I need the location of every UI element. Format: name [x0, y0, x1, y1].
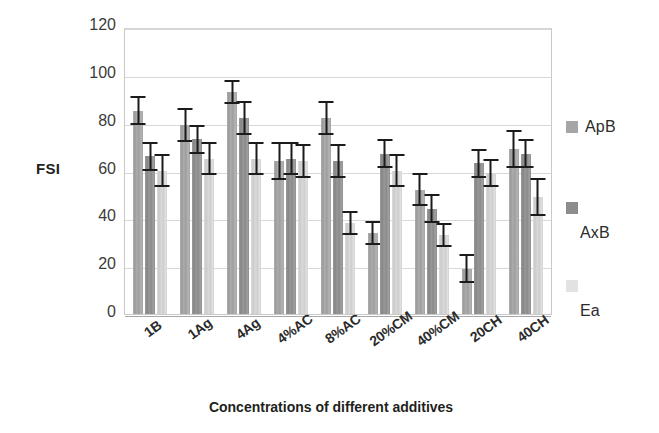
bar-slot: [192, 29, 202, 314]
bar-slot: [145, 29, 155, 314]
bar-slot: [204, 29, 214, 314]
y-tick-label: 0: [52, 304, 116, 320]
bar-slot: [180, 29, 190, 314]
bar: [298, 161, 308, 314]
bar-slot: [298, 29, 308, 314]
bar: [321, 118, 331, 314]
bar-group: [315, 29, 362, 314]
bar: [133, 111, 143, 314]
bar-group: [174, 29, 221, 314]
x-axis-title: Concentrations of different additives: [96, 399, 566, 415]
bar-slot: [286, 29, 296, 314]
bar: [368, 233, 378, 314]
bar-slot: [157, 29, 167, 314]
x-tick-wrap: 20%CM: [362, 316, 410, 386]
bar-slot: [533, 29, 543, 314]
bar-group: [221, 29, 268, 314]
bar: [474, 163, 484, 314]
bar-group: [502, 29, 549, 314]
bar-group: [408, 29, 455, 314]
bar: [239, 118, 249, 314]
x-tick-wrap: 20CH: [457, 316, 505, 386]
legend-label: Ea: [580, 302, 600, 320]
bar: [345, 223, 355, 314]
bar-slot: [474, 29, 484, 314]
x-tick-label: 4%AC: [274, 310, 315, 346]
bar: [192, 139, 202, 314]
x-axis-tick-labels: 1B1Ag4Ag4%AC8%AC20%CM40%CM20CH40CH: [124, 316, 552, 386]
legend-label: AxB: [580, 224, 610, 242]
bar: [462, 269, 472, 314]
legend-swatch-icon: [566, 121, 578, 133]
y-tick-label: 100: [52, 65, 116, 81]
x-tick-wrap: 8%AC: [314, 316, 362, 386]
bars-layer: [125, 29, 551, 314]
bar-group: [455, 29, 502, 314]
bar-group: [268, 29, 315, 314]
legend-item-apb[interactable]: ApB: [566, 118, 616, 136]
x-tick-wrap: 40CH: [505, 316, 553, 386]
bar: [204, 159, 214, 314]
legend-label: ApB: [585, 118, 616, 136]
y-tick-label: 20: [52, 256, 116, 272]
bar-slot: [392, 29, 402, 314]
x-tick-wrap: 40%CM: [409, 316, 457, 386]
bar-slot: [133, 29, 143, 314]
bar-group: [127, 29, 174, 314]
bar-slot: [274, 29, 284, 314]
y-axis-tick-labels: 120100806040200: [52, 25, 116, 315]
bar-slot: [227, 29, 237, 314]
x-tick-label: 1Ag: [185, 314, 215, 342]
legend-swatch-icon: [566, 280, 578, 292]
bar: [145, 156, 155, 314]
x-tick-wrap: 1Ag: [172, 316, 220, 386]
bar-group: [361, 29, 408, 314]
x-tick-wrap: 1B: [124, 316, 172, 386]
legend-item-ea[interactable]: Ea: [566, 278, 600, 320]
y-tick-label: 80: [52, 113, 116, 129]
x-tick-label: 4Ag: [232, 314, 262, 342]
y-tick-label: 40: [52, 208, 116, 224]
bar: [521, 154, 531, 314]
bar-slot: [239, 29, 249, 314]
bar: [380, 154, 390, 314]
bar-slot: [333, 29, 343, 314]
plot-area: [124, 28, 552, 315]
x-tick-label: 40CH: [514, 312, 552, 346]
bar-slot: [345, 29, 355, 314]
x-tick-label: 1B: [141, 317, 165, 340]
y-tick-label: 120: [52, 17, 116, 33]
bar-slot: [486, 29, 496, 314]
bar-slot: [509, 29, 519, 314]
bar-slot: [380, 29, 390, 314]
bar-slot: [439, 29, 449, 314]
bar-slot: [368, 29, 378, 314]
bar-slot: [521, 29, 531, 314]
bar: [274, 161, 284, 314]
bar: [439, 235, 449, 314]
legend-swatch-icon: [566, 202, 578, 214]
bar: [427, 209, 437, 314]
bar-slot: [462, 29, 472, 314]
bar: [333, 161, 343, 314]
bar: [392, 171, 402, 315]
bar: [227, 92, 237, 314]
legend-item-axb[interactable]: AxB: [566, 200, 610, 242]
bar-slot: [415, 29, 425, 314]
bar: [533, 197, 543, 314]
bar: [157, 171, 167, 315]
y-tick-label: 60: [52, 161, 116, 177]
bar-slot: [321, 29, 331, 314]
bar: [415, 190, 425, 314]
x-tick-wrap: 4%AC: [267, 316, 315, 386]
bar: [286, 159, 296, 314]
fsi-bar-chart: FSI 120100806040200 1B1Ag4Ag4%AC8%AC20%C…: [0, 0, 659, 433]
bar: [180, 125, 190, 314]
bar: [251, 159, 261, 314]
x-tick-label: 8%AC: [322, 310, 363, 346]
bar: [509, 149, 519, 314]
bar-slot: [427, 29, 437, 314]
bar-slot: [251, 29, 261, 314]
x-tick-label: 20CH: [467, 312, 505, 346]
x-tick-wrap: 4Ag: [219, 316, 267, 386]
